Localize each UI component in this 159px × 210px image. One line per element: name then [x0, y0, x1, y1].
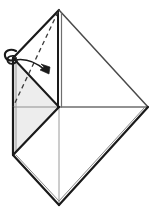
origami-figure-container [0, 0, 159, 210]
origami-diagram-svg [0, 0, 159, 210]
